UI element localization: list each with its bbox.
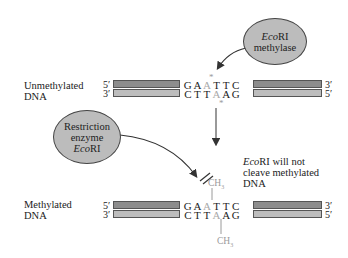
restriction-eco: Eco <box>74 143 90 154</box>
unmethylated-label-line1: Unmethylated <box>24 80 83 91</box>
base: G <box>231 210 241 220</box>
note-line3: DNA <box>243 178 319 189</box>
base: C <box>183 210 193 220</box>
restriction-enzyme-ellipse: Restriction enzyme EcoRI <box>53 110 121 164</box>
base: C <box>183 89 193 99</box>
meth-top-strand-right <box>253 201 322 209</box>
unmeth-bottom-strand-right <box>253 89 322 97</box>
ch3-text: CH <box>217 236 230 246</box>
ch3-text: CH <box>208 178 221 188</box>
meth-bottom-strand-right <box>253 210 322 218</box>
methyl-site-star-top: * <box>209 73 214 82</box>
unmeth-bottom-sequence: CTTAAG <box>183 89 241 99</box>
unmethylated-label: Unmethylated DNA <box>24 80 83 102</box>
unmeth-bottom-5prime: 5′ <box>325 89 332 99</box>
unmeth-top-strand-right <box>253 80 322 88</box>
methylated-adenine: A <box>212 210 222 220</box>
restriction-line1: Restriction <box>64 121 110 132</box>
meth-top-strand-left <box>113 201 180 209</box>
methylated-label: Methylated DNA <box>24 199 72 221</box>
methylase-arrow <box>218 48 246 68</box>
restriction-ri: RI <box>90 143 101 154</box>
base: A <box>221 210 231 220</box>
meth-bottom-5prime: 5′ <box>325 210 332 220</box>
base: T <box>202 210 212 220</box>
ecori-methylase-ellipse: EcoRI methylase <box>243 18 307 65</box>
meth-bottom-3prime: 3′ <box>103 210 110 220</box>
meth-bottom-strand-left <box>113 210 180 218</box>
ch3-bottom: CH3 <box>217 236 233 251</box>
ch3-subscript: 3 <box>230 242 233 248</box>
methylase-label: methylase <box>254 42 297 53</box>
methylated-label-line2: DNA <box>24 210 72 221</box>
methylated-label-line1: Methylated <box>24 199 72 210</box>
base: G <box>231 89 241 99</box>
meth-bottom-sequence: CTTAAG <box>183 210 241 220</box>
methylase-eco: Eco <box>262 31 278 42</box>
unmethylated-label-line2: DNA <box>24 91 83 102</box>
methylase-ri: RI <box>278 31 289 42</box>
note-line2: cleave methylated <box>243 167 319 178</box>
note-eco: Eco <box>243 156 259 167</box>
note-line1: RI will not <box>259 156 305 167</box>
unmeth-top-strand-left <box>113 80 180 88</box>
unmeth-bottom-strand-left <box>113 89 180 97</box>
cleavage-note: EcoRI will not cleave methylated DNA <box>243 156 319 189</box>
methyl-site-star-bottom: * <box>219 99 224 108</box>
base: T <box>193 89 203 99</box>
ch3-top: CH3 <box>208 178 224 193</box>
restriction-arrow <box>120 135 196 176</box>
base: T <box>193 210 203 220</box>
restriction-line2: enzyme <box>64 132 110 143</box>
unmeth-bottom-3prime: 3′ <box>103 89 110 99</box>
base: T <box>202 89 212 99</box>
ch3-subscript: 3 <box>221 184 224 190</box>
